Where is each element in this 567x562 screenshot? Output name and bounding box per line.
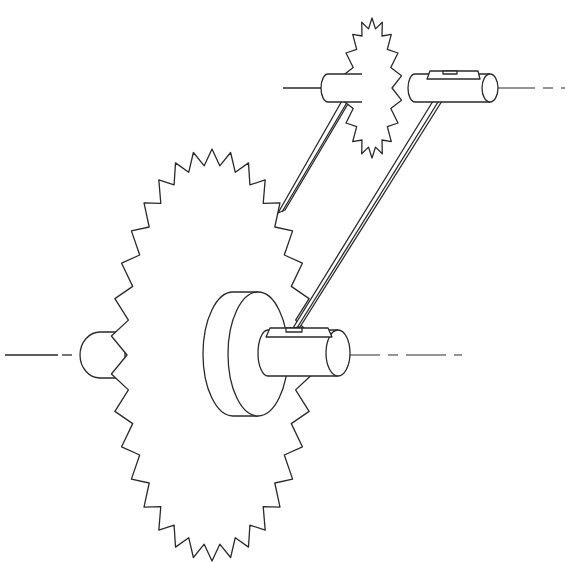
chain-strand-upper (278, 92, 355, 213)
sprocket-diagram (0, 0, 567, 562)
key-small (427, 71, 480, 79)
key-large (266, 328, 332, 337)
